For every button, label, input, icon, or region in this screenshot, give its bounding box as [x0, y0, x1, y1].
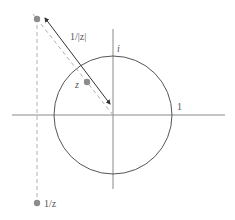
label-inverse: 1/z [44, 198, 57, 209]
ray-dashed-line [33, 14, 113, 115]
complex-plane-diagram: 1/|z| i z 1 1/z [0, 0, 235, 220]
label-imag-unit: i [117, 43, 120, 54]
label-modulus: 1/|z| [70, 31, 86, 42]
label-real-unit: 1 [177, 101, 182, 112]
point-z [84, 79, 90, 85]
label-z: z [74, 79, 79, 90]
point-one-over-conj-z [34, 16, 40, 22]
point-one-over-z [34, 200, 40, 206]
